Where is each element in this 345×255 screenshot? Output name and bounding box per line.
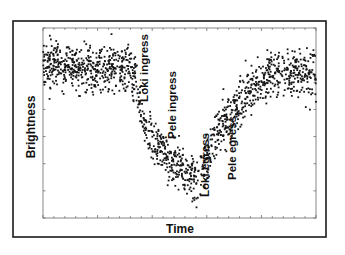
- data-point: [121, 70, 123, 72]
- data-point: [128, 65, 130, 67]
- data-point: [143, 124, 145, 126]
- data-point: [269, 69, 271, 71]
- data-point: [127, 68, 129, 70]
- data-point: [164, 162, 166, 164]
- data-point: [55, 69, 57, 71]
- data-point: [119, 80, 121, 82]
- data-point: [102, 72, 104, 74]
- data-point: [68, 66, 70, 68]
- data-point: [69, 51, 71, 53]
- data-point: [151, 131, 153, 133]
- data-point: [185, 168, 187, 170]
- data-point: [265, 91, 267, 93]
- data-point: [163, 159, 165, 161]
- data-point: [298, 66, 300, 68]
- data-point: [238, 115, 240, 117]
- data-point: [255, 99, 257, 101]
- data-point: [70, 76, 72, 78]
- data-point: [285, 69, 287, 71]
- data-point: [291, 95, 293, 97]
- data-point: [272, 75, 274, 77]
- data-point: [248, 104, 250, 106]
- data-point: [86, 89, 88, 91]
- data-point: [278, 52, 280, 54]
- data-point: [115, 59, 117, 61]
- data-point: [266, 49, 268, 51]
- data-point: [142, 125, 144, 127]
- data-point: [288, 80, 290, 82]
- data-point: [87, 65, 89, 67]
- data-point: [163, 142, 165, 144]
- data-point: [293, 90, 295, 92]
- data-point: [239, 126, 241, 128]
- data-point: [214, 146, 216, 148]
- data-point: [107, 91, 109, 93]
- data-point: [168, 180, 170, 182]
- data-point: [266, 79, 268, 81]
- data-point: [262, 72, 264, 74]
- data-point: [288, 84, 290, 86]
- data-point: [146, 121, 148, 123]
- data-point: [71, 82, 73, 84]
- data-point: [287, 53, 289, 55]
- data-point: [164, 157, 166, 159]
- data-point: [144, 140, 146, 142]
- data-point: [66, 47, 68, 49]
- data-point: [249, 100, 251, 102]
- data-point: [42, 65, 44, 67]
- data-point: [300, 81, 302, 83]
- data-point: [214, 157, 216, 159]
- data-point: [51, 71, 53, 73]
- data-point: [171, 164, 173, 166]
- data-point: [234, 94, 236, 96]
- data-point: [163, 136, 165, 138]
- data-point: [107, 70, 109, 72]
- data-point: [216, 154, 218, 156]
- data-point: [212, 153, 214, 155]
- data-point: [160, 137, 162, 139]
- data-point: [255, 71, 257, 73]
- data-point: [51, 73, 53, 75]
- data-point: [125, 90, 127, 92]
- data-point: [283, 69, 285, 71]
- data-point: [257, 84, 259, 86]
- data-point: [53, 55, 55, 57]
- data-point: [129, 73, 131, 75]
- data-point: [181, 165, 183, 167]
- data-point: [58, 71, 60, 73]
- data-point: [141, 103, 143, 105]
- data-point: [159, 159, 161, 161]
- data-point: [64, 59, 66, 61]
- data-point: [58, 66, 60, 68]
- data-point: [254, 95, 256, 97]
- data-point: [137, 106, 139, 108]
- data-point: [80, 49, 82, 51]
- data-point: [269, 76, 271, 78]
- data-point: [238, 86, 240, 88]
- data-point: [104, 56, 106, 58]
- data-point: [292, 58, 294, 60]
- data-point: [139, 110, 141, 112]
- data-point: [174, 172, 176, 174]
- data-point: [111, 71, 113, 73]
- data-point: [300, 59, 302, 61]
- data-point: [101, 75, 103, 77]
- data-point: [216, 126, 218, 128]
- data-point: [53, 82, 55, 84]
- data-point: [96, 52, 98, 54]
- data-point: [246, 102, 248, 104]
- data-point: [88, 63, 90, 65]
- data-point: [157, 140, 159, 142]
- data-point: [278, 70, 280, 72]
- data-point: [304, 59, 306, 61]
- data-point: [216, 115, 218, 117]
- data-point: [86, 79, 88, 81]
- data-point: [47, 60, 49, 62]
- data-point: [172, 170, 174, 172]
- data-point: [90, 76, 92, 78]
- data-point: [167, 156, 169, 158]
- data-point: [293, 81, 295, 83]
- data-point: [277, 84, 279, 86]
- data-point: [247, 96, 249, 98]
- data-point: [85, 43, 87, 45]
